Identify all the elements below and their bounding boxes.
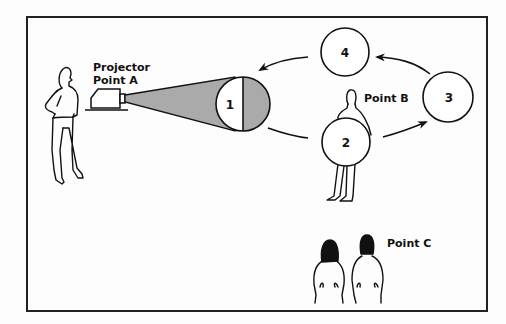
projection-diagram: 1 2 3 4 Projector Point A Poi <box>0 0 506 324</box>
circle-4: 4 <box>321 28 369 76</box>
arrow-2-to-3 <box>383 122 426 137</box>
point-c-label: Point C <box>387 237 431 250</box>
circle-3-label: 3 <box>445 91 453 105</box>
arrow-3-to-4 <box>377 57 430 74</box>
person-c-man-icon <box>352 235 383 303</box>
circle-1-label: 1 <box>226 98 234 112</box>
circle-2: 2 <box>322 118 370 166</box>
point-a-label: Point A <box>93 74 138 87</box>
person-a-icon <box>45 68 83 184</box>
person-c-woman-icon <box>314 240 344 303</box>
connector-1-to-2 <box>268 128 308 138</box>
projector-icon <box>85 89 128 110</box>
projector-label: Projector <box>93 61 151 74</box>
circle-4-label: 4 <box>341 46 349 60</box>
circle-3: 3 <box>423 72 473 122</box>
point-b-label: Point B <box>364 92 409 105</box>
arrow-4-to-1 <box>260 57 308 70</box>
circle-2-label: 2 <box>342 136 350 150</box>
circle-1: 1 <box>216 77 270 131</box>
